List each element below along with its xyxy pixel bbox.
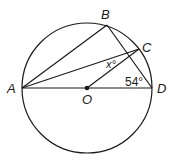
label-d: D (157, 81, 166, 96)
label-c: C (142, 40, 152, 55)
label-a: A (6, 81, 16, 96)
label-o: O (82, 92, 92, 107)
circle-diagram: B C A D O x° 54° (0, 0, 173, 164)
angle-d-label: 54° (125, 75, 143, 89)
chord-ac (22, 49, 139, 88)
label-b: B (101, 7, 110, 22)
angle-x-label: x° (105, 58, 117, 70)
chord-ab (22, 25, 107, 88)
center-dot (85, 86, 90, 91)
